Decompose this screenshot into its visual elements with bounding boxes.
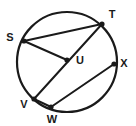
vertex-dot-w: [48, 104, 53, 109]
vertex-dot-v: [31, 96, 36, 101]
vertex-label-t: T: [109, 8, 116, 20]
chords-group: [24, 24, 114, 107]
vertex-dot-x: [111, 61, 116, 66]
vertex-label-w: W: [47, 113, 58, 125]
chord-s-t: [24, 24, 102, 41]
vertex-label-s: S: [6, 31, 13, 43]
vertex-label-v: V: [20, 98, 28, 110]
segment-s-u: [24, 41, 67, 60]
circle-diagram-svg: S T U V W X: [0, 0, 136, 126]
vertex-dot-s: [21, 38, 26, 43]
vertex-dot-u: [64, 57, 69, 62]
vertex-dot-t: [99, 21, 104, 26]
vertex-label-x: X: [120, 57, 128, 69]
geometry-figure: S T U V W X: [0, 0, 136, 126]
vertex-label-u: U: [76, 54, 84, 66]
